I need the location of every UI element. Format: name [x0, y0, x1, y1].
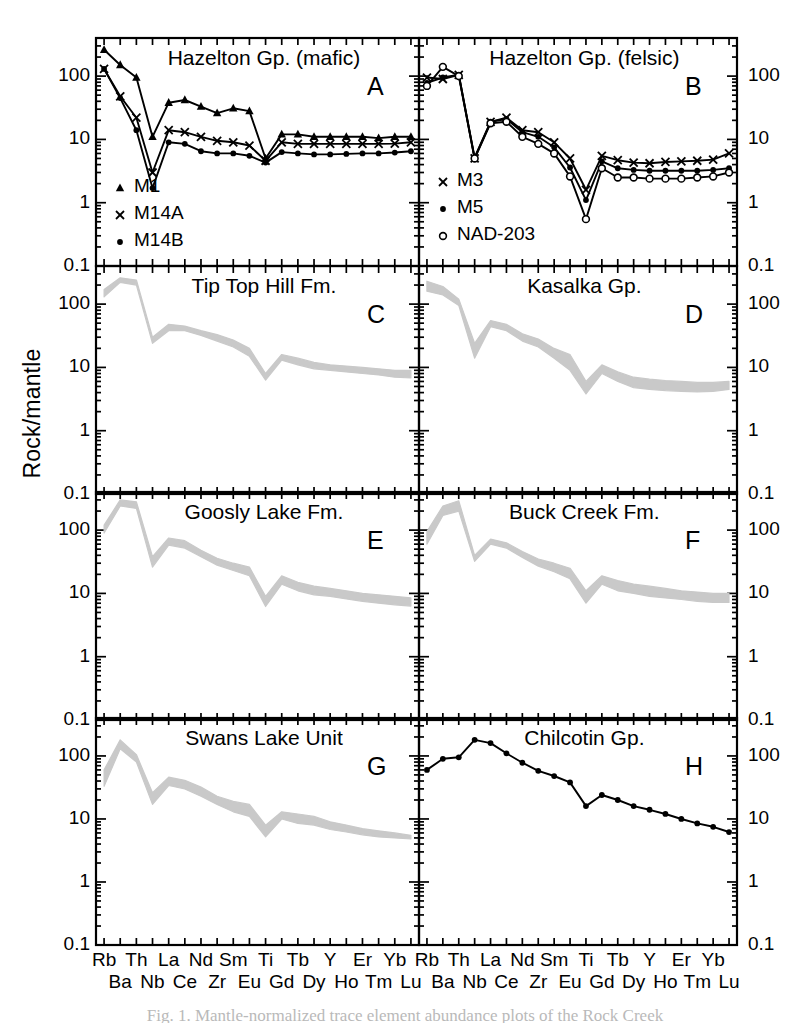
x-tick-label-sm: Sm — [217, 949, 249, 971]
panel-c-title: Tip Top Hill Fm. — [124, 274, 404, 298]
legend-panel-a — [116, 183, 124, 245]
y-tick-label-right: 100 — [748, 518, 808, 540]
y-tick-label-left: 100 — [30, 292, 90, 314]
y-tick-label-left: 1 — [30, 870, 90, 892]
y-tick-label-left: 1 — [30, 419, 90, 441]
panel-d-title: Kasalka Gp. — [444, 274, 724, 298]
panel-letter-e: E — [367, 526, 384, 555]
y-tick-label-left: 1 — [30, 645, 90, 667]
x-tick-label-ti: Ti — [250, 949, 282, 971]
panel-letter-c: C — [367, 300, 385, 329]
x-tick-label-tb: Tb — [602, 949, 634, 971]
x-tick-label-lu: Lu — [713, 971, 745, 993]
y-tick-label-right: 100 — [748, 292, 808, 314]
panel-letter-f: F — [685, 526, 700, 555]
panel-letter-g: G — [367, 752, 386, 781]
x-tick-label-gd: Gd — [266, 971, 298, 993]
panel-h-title: Chilcotin Gp. — [444, 726, 724, 750]
x-tick-label-tm: Tm — [363, 971, 395, 993]
y-tick-label-left: 10 — [30, 355, 90, 377]
legend-item-m3: M3 — [457, 169, 483, 191]
x-tick-label-er: Er — [346, 949, 378, 971]
y-tick-label-left: 1 — [30, 191, 90, 213]
x-tick-label-ce: Ce — [490, 971, 522, 993]
x-tick-label-ho: Ho — [330, 971, 362, 993]
panel-letter-d: D — [685, 300, 703, 329]
panel-f-title: Buck Creek Fm. — [444, 500, 724, 524]
panel-e-title: Goosly Lake Fm. — [124, 500, 404, 524]
x-tick-label-ho: Ho — [649, 971, 681, 993]
legend-item-m1: M1 — [134, 175, 160, 197]
panel-g-plot-area — [104, 740, 411, 839]
y-tick-label-left: 10 — [30, 807, 90, 829]
y-tick-label-right: 0.1 — [748, 482, 808, 504]
x-tick-label-lu: Lu — [395, 971, 427, 993]
y-tick-label-right: 0.1 — [748, 254, 808, 276]
x-tick-label-dy: Dy — [298, 971, 330, 993]
x-tick-label-yb: Yb — [379, 949, 411, 971]
y-tick-label-left: 100 — [30, 64, 90, 86]
y-tick-label-right: 100 — [748, 64, 808, 86]
legend-item-m14b: M14B — [134, 229, 184, 251]
panel-letter-h: H — [685, 752, 703, 781]
x-tick-label-ti: Ti — [570, 949, 602, 971]
y-tick-label-left: 100 — [30, 518, 90, 540]
panel-letter-b: B — [685, 72, 702, 101]
data-band-g — [104, 740, 411, 839]
series-line-m14a — [104, 69, 411, 173]
y-tick-label-left: 0.1 — [30, 254, 90, 276]
x-tick-label-y: Y — [314, 949, 346, 971]
panel-g-title: Swans Lake Unit — [124, 726, 404, 750]
data-band-d — [427, 281, 729, 394]
y-tick-label-right: 1 — [748, 870, 808, 892]
y-tick-label-left: 0.1 — [30, 482, 90, 504]
y-tick-label-left: 0.1 — [30, 708, 90, 730]
y-tick-label-right: 1 — [748, 419, 808, 441]
x-tick-label-yb: Yb — [697, 949, 729, 971]
y-tick-label-right: 10 — [748, 807, 808, 829]
panel-a-title: Hazelton Gp. (mafic) — [124, 46, 404, 70]
x-tick-label-nb: Nb — [137, 971, 169, 993]
y-axis-title: Rock/mantle — [19, 324, 46, 504]
y-tick-label-left: 0.1 — [30, 933, 90, 955]
y-tick-label-left: 100 — [30, 744, 90, 766]
legend-item-m5: M5 — [457, 196, 483, 218]
legend-item-nad-203: NAD-203 — [457, 223, 535, 245]
x-tick-label-eu: Eu — [233, 971, 265, 993]
x-tick-label-ba: Ba — [104, 971, 136, 993]
x-tick-label-la: La — [153, 949, 185, 971]
y-tick-label-left: 10 — [30, 581, 90, 603]
legend-item-m14a: M14A — [134, 202, 184, 224]
figure-caption: Fig. 1. Mantle-normalized trace element … — [0, 1006, 810, 1023]
y-tick-label-left: 10 — [30, 127, 90, 149]
y-tick-label-right: 100 — [748, 744, 808, 766]
panel-b-title: Hazelton Gp. (felsic) — [444, 46, 724, 70]
figure-root: Rock/mantle Fig. 1. Mantle-normalized tr… — [0, 0, 810, 1023]
y-tick-label-right: 1 — [748, 645, 808, 667]
y-tick-label-right: 10 — [748, 581, 808, 603]
legend-panel-b — [439, 178, 447, 239]
x-tick-label-rb: Rb — [88, 949, 120, 971]
x-tick-label-eu: Eu — [554, 971, 586, 993]
y-tick-label-right: 10 — [748, 127, 808, 149]
x-tick-label-la: La — [475, 949, 507, 971]
x-tick-label-ce: Ce — [169, 971, 201, 993]
y-tick-label-right: 0.1 — [748, 708, 808, 730]
x-tick-label-dy: Dy — [618, 971, 650, 993]
x-tick-label-th: Th — [443, 949, 475, 971]
x-tick-label-nd: Nd — [506, 949, 538, 971]
y-tick-label-right: 0.1 — [748, 933, 808, 955]
x-tick-label-y: Y — [634, 949, 666, 971]
x-tick-label-rb: Rb — [411, 949, 443, 971]
y-tick-label-right: 10 — [748, 355, 808, 377]
x-tick-label-zr: Zr — [201, 971, 233, 993]
x-tick-label-zr: Zr — [522, 971, 554, 993]
x-tick-label-tm: Tm — [681, 971, 713, 993]
x-tick-label-gd: Gd — [586, 971, 618, 993]
y-tick-label-right: 1 — [748, 191, 808, 213]
x-tick-label-er: Er — [665, 949, 697, 971]
x-tick-label-ba: Ba — [427, 971, 459, 993]
x-tick-label-sm: Sm — [538, 949, 570, 971]
x-tick-label-nb: Nb — [459, 971, 491, 993]
x-tick-label-tb: Tb — [282, 949, 314, 971]
